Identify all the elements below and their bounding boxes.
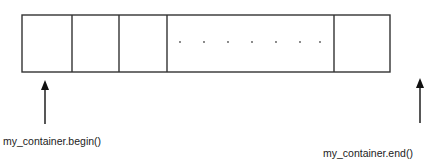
begin-label: my_container.begin() <box>3 135 101 147</box>
begin-arrow-icon <box>41 80 49 124</box>
end-arrow-icon <box>416 78 424 123</box>
ellipsis-dots <box>179 41 321 43</box>
end-label: my_container.end() <box>323 147 413 159</box>
container-box <box>22 15 390 72</box>
